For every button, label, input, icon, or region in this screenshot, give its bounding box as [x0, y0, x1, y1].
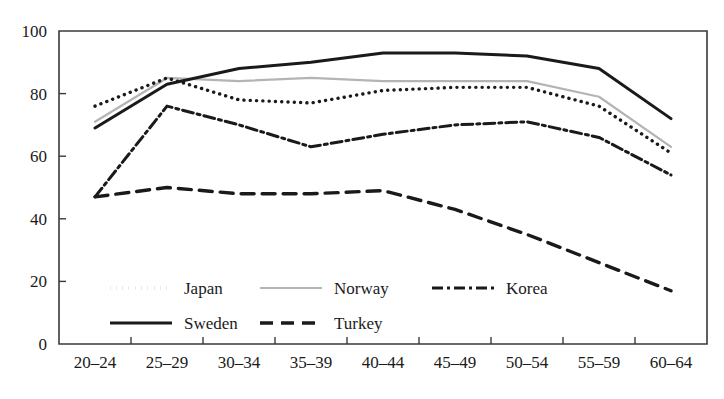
line-chart: 02040608010020–2425–2930–3435–3940–4445–… — [0, 0, 724, 399]
x-tick-label: 45–49 — [434, 353, 477, 372]
y-tick-label: 40 — [30, 210, 47, 229]
legend-label-sweden: Sweden — [184, 314, 238, 333]
legend-label-norway: Norway — [334, 279, 389, 298]
legend-label-japan: Japan — [184, 279, 223, 298]
series-line-japan — [95, 78, 671, 153]
chart-series — [95, 53, 671, 291]
x-tick-label: 25–29 — [146, 353, 189, 372]
x-tick-label: 20–24 — [74, 353, 117, 372]
x-tick-label: 60–64 — [650, 353, 693, 372]
y-tick-label: 60 — [30, 147, 47, 166]
y-tick-label: 80 — [30, 85, 47, 104]
x-tick-label: 30–34 — [218, 353, 261, 372]
x-tick-label: 50–54 — [506, 353, 549, 372]
series-line-turkey — [95, 188, 671, 291]
legend-label-korea: Korea — [506, 279, 548, 298]
series-line-norway — [95, 78, 671, 147]
x-tick-label: 40–44 — [362, 353, 405, 372]
x-tick-label: 35–39 — [290, 353, 333, 372]
y-tick-label: 0 — [39, 335, 48, 354]
x-tick-label: 55–59 — [578, 353, 621, 372]
legend-label-turkey: Turkey — [334, 314, 383, 333]
chart-figure: 02040608010020–2425–2930–3435–3940–4445–… — [0, 0, 724, 399]
chart-legend: JapanNorwayKoreaSwedenTurkey — [110, 279, 548, 333]
series-line-korea — [95, 106, 671, 197]
y-tick-label: 20 — [30, 272, 47, 291]
y-tick-label: 100 — [22, 22, 48, 41]
